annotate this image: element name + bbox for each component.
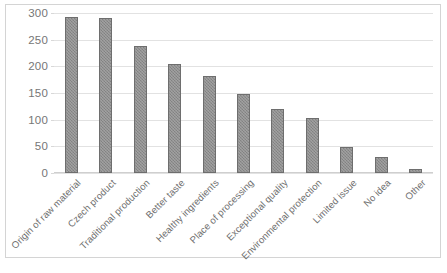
bar — [375, 157, 388, 173]
bar — [237, 94, 250, 173]
y-tick-label: 200 — [28, 60, 48, 72]
bar — [271, 109, 284, 173]
bar — [409, 169, 422, 173]
chart-figure: 050100150200250300 Origin of raw materia… — [0, 0, 447, 273]
bar — [134, 46, 147, 173]
bar — [65, 17, 78, 173]
bar — [203, 76, 216, 173]
bar — [168, 64, 181, 173]
x-tick-label: Place of processing — [187, 177, 255, 245]
x-axis-labels: Origin of raw materialCzech productTradi… — [54, 174, 433, 258]
x-tick-label: Traditional production — [78, 177, 152, 251]
bars-group — [54, 13, 433, 173]
bar — [99, 18, 112, 173]
y-tick-label: 150 — [28, 87, 48, 99]
bar — [306, 118, 319, 173]
plot-area: 050100150200250300 — [54, 13, 433, 173]
y-tick-label: 50 — [35, 140, 48, 152]
x-tick-label: Other — [402, 177, 427, 202]
y-tick-label: 300 — [28, 7, 48, 19]
x-tick-label: Healthy ingredients — [154, 177, 221, 244]
x-tick-label: No idea — [361, 177, 393, 209]
x-tick-label: Exceptional quality — [224, 177, 290, 243]
y-tick-label: 0 — [41, 167, 48, 179]
y-tick-label: 250 — [28, 34, 48, 46]
y-tick-label: 100 — [28, 114, 48, 126]
bar — [340, 147, 353, 173]
